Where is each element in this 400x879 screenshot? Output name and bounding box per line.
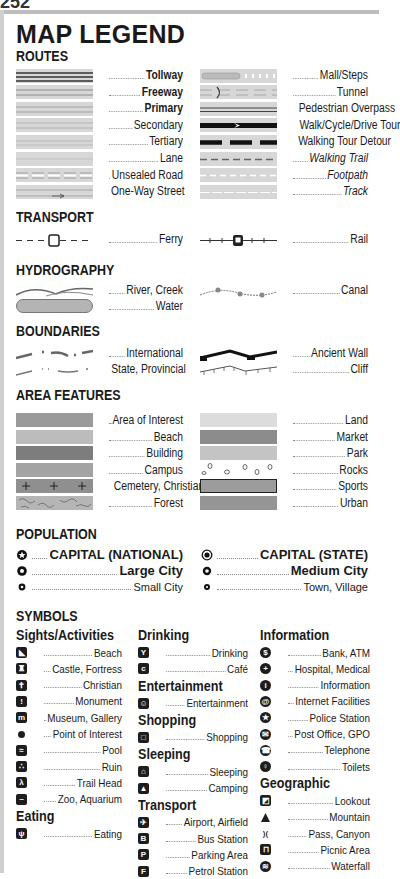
legend-row-sports: Sports: [200, 479, 368, 493]
secondary-line-icon: [16, 118, 93, 131]
ferry-line-icon: [16, 233, 93, 246]
legend-row-tollway: Tollway: [16, 68, 183, 82]
rocks-fill-icon: [200, 463, 277, 477]
walk-cycle-drive-tour-line-icon: [200, 118, 277, 131]
primary-line-icon: [16, 102, 93, 115]
symbol-group-shopping: Shopping: [138, 712, 196, 728]
legend-row-primary: Primary: [16, 101, 183, 115]
fuel-icon: F: [138, 866, 149, 877]
legend-row-cliff: Cliff: [200, 362, 368, 376]
legend-row-airport-airfield: ✈Airport, Airfield: [138, 815, 248, 830]
legend-row-ruin: ∴Ruin: [16, 759, 122, 774]
symbol-group-transport: Transport: [138, 797, 196, 813]
small-dot-icon: [16, 581, 28, 593]
symbol-group-sleeping: Sleeping: [138, 746, 191, 762]
legend-row-capital-national: CAPITAL (NATIONAL): [16, 547, 183, 562]
legend-row-monument: !Monument: [16, 694, 122, 709]
legend-row-walk-cycle-drive-tour: Walk/Cycle/Drive Tour: [200, 118, 368, 132]
legend-row-large-city: Large City: [16, 563, 183, 578]
freeway-line-icon: [16, 85, 93, 98]
land-fill-icon: [200, 413, 277, 427]
bag-icon: □: [138, 732, 149, 743]
lookout-icon: ◩: [260, 795, 271, 806]
canal-line-icon: [200, 284, 277, 297]
beach-fill-icon: [16, 430, 93, 444]
section-heading-symbols: SYMBOLS: [16, 608, 78, 624]
page-title: MAP LEGEND: [16, 20, 185, 49]
legend-row-state: State, Provincial: [16, 362, 183, 376]
legend-row-caf: cCafé: [138, 661, 248, 676]
one-way-street-line-icon: [16, 185, 93, 198]
track-line-icon: [200, 185, 277, 198]
legend-row-post-office-gpo: ✉Post Office, GPO: [260, 727, 370, 742]
legend-row-museum-gallery: mMuseum, Gallery: [16, 710, 122, 725]
pedestrian-overpass-line-icon: [200, 102, 277, 115]
tiny-dot-icon: [201, 581, 213, 593]
legend-row-area-of-interest: Area of Interest: [16, 413, 183, 427]
legend-row-zoo-aquarium: ~Zoo, Aquarium: [16, 792, 122, 807]
legend-row-cemetery-christian: Cemetery, Christian: [16, 479, 183, 493]
legend-row-small-city: Small City: [16, 579, 183, 594]
symbol-group-sights-activities: Sights/Activities: [16, 627, 114, 643]
legend-row-land: Land: [200, 413, 368, 427]
river-line-icon: [16, 284, 93, 297]
legend-row-petrol-station: FPetrol Station: [138, 864, 248, 879]
masks-icon: ☺: [138, 698, 149, 709]
legend-row-unsealed-road: Unsealed Road: [16, 168, 183, 182]
footpath-line-icon: [200, 168, 277, 181]
legend-row-building: Building: [16, 446, 183, 460]
ring-dot-icon: [201, 549, 213, 561]
legend-row-market: Market: [200, 430, 368, 444]
legend-row-christian: ✝Christian: [16, 678, 122, 693]
cliff-icon: [200, 363, 277, 376]
legend-row-ferry: Ferry: [16, 232, 183, 246]
urban-fill-icon: [200, 496, 277, 510]
legend-row-waterfall: ≋Waterfall: [260, 859, 370, 874]
cup-icon: c: [138, 663, 149, 674]
building-fill-icon: [16, 446, 93, 460]
legend-row-mountain: Mountain: [260, 810, 370, 825]
large-dot-icon: [16, 565, 28, 577]
police-star-icon: ★: [260, 712, 271, 723]
legend-row-toilets: ♀Toilets: [260, 759, 370, 774]
legend-row-international: International: [16, 346, 183, 360]
legend-row-parking-area: PParking Area: [138, 847, 248, 862]
symbol-group-eating: Eating: [16, 808, 55, 824]
envelope-icon: ✉: [260, 729, 271, 740]
legend-row-walking-tour-detour: Walking Tour Detour: [200, 134, 368, 148]
section-heading-boundaries: BOUNDARIES: [16, 323, 100, 339]
symbol-group-drinking: Drinking: [138, 627, 189, 643]
legend-row-camping: ▲Camping: [138, 781, 248, 796]
cross-icon: ✝: [16, 680, 27, 691]
legend-row-freeway: Freeway: [16, 85, 183, 99]
plane-icon: ✈: [138, 817, 149, 828]
section-heading-population: POPULATION: [16, 526, 97, 542]
tertiary-line-icon: [16, 135, 93, 148]
legend-row-urban: Urban: [200, 496, 368, 510]
legend-row-sleeping: ⌂Sleeping: [138, 764, 248, 779]
mountain-icon: [260, 812, 271, 823]
legend-row-water: Water: [16, 299, 183, 313]
legend-row-mall-steps: Mall/Steps: [200, 68, 368, 82]
legend-row-lookout: ◩Lookout: [260, 793, 370, 808]
park-fill-icon: [200, 446, 277, 460]
hiker-icon: λ: [16, 777, 27, 788]
legend-row-rail: Rail: [200, 232, 368, 246]
legend-row-pass-canyon: )(Pass, Canyon: [260, 826, 370, 841]
lane-line-icon: [16, 152, 93, 165]
museum-icon: m: [16, 712, 27, 723]
legend-row-campus: Campus: [16, 463, 183, 477]
legend-row-eating: ψEating: [16, 826, 122, 841]
picnic-icon: ⊓: [260, 844, 271, 855]
legend-row-internet-facilities: @Internet Facilities: [260, 694, 370, 709]
legend-row-forest: Forest: [16, 496, 183, 510]
legend-row-canal: Canal: [200, 283, 368, 297]
walking-tour-detour-line-icon: [200, 135, 277, 148]
legend-row-shopping: □Shopping: [138, 730, 248, 745]
legend-row-river: River, Creek: [16, 283, 183, 297]
fork-knife-icon: ψ: [16, 828, 27, 839]
legend-row-capital-state: CAPITAL (STATE): [201, 547, 368, 562]
legend-row-park: Park: [200, 446, 368, 460]
at-sign-icon: @: [260, 696, 271, 707]
ruin-icon: ∴: [16, 761, 27, 772]
